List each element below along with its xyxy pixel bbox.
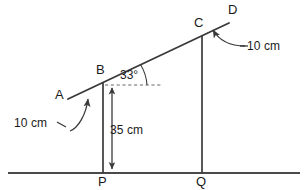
point-label-c: C bbox=[194, 16, 204, 29]
point-label-q: Q bbox=[196, 175, 206, 188]
dimension-label-ab-10cm: 10 cm bbox=[14, 117, 47, 129]
leader-arrow-ab bbox=[70, 99, 88, 131]
point-label-d: D bbox=[228, 3, 238, 16]
diagram-canvas bbox=[0, 0, 308, 190]
dimension-label-cd-10cm: 10 cm bbox=[247, 40, 280, 52]
leader-tick-ab bbox=[57, 122, 66, 127]
point-label-b: B bbox=[96, 63, 105, 76]
angle-arc bbox=[141, 65, 147, 85]
point-label-p: P bbox=[98, 175, 107, 188]
angle-label-33deg: 33° bbox=[120, 69, 138, 81]
point-label-a: A bbox=[55, 88, 64, 101]
dimension-label-bp-35cm: 35 cm bbox=[110, 124, 143, 136]
leader-arrow-cd bbox=[213, 30, 245, 46]
geometry-diagram: A B C D P Q 33° 10 cm 10 cm 35 cm bbox=[0, 0, 308, 190]
incline-line-ad bbox=[68, 23, 229, 99]
